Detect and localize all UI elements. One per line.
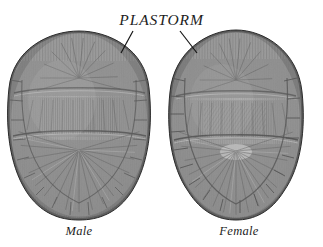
caption-female: Female (191, 224, 287, 239)
plastron-figure: PLASTORM Male Female (0, 0, 323, 247)
plastorm-label: PLASTORM (0, 11, 323, 29)
caption-male: Male (33, 224, 125, 239)
plastron-illustration (0, 0, 323, 247)
